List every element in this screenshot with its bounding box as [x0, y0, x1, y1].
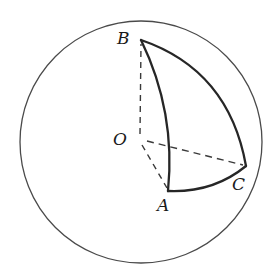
- sphere-outline: [20, 21, 262, 263]
- radius-OB-dashed: [140, 44, 141, 134]
- radius-OC-dashed: [147, 141, 243, 165]
- vertex-label-b: B: [117, 30, 130, 47]
- vertex-label-o: O: [113, 131, 127, 148]
- arc-BC: [141, 40, 246, 166]
- vertex-label-c: C: [232, 176, 245, 193]
- spherical-triangle-figure: B O A C: [0, 0, 280, 279]
- figure-canvas: [0, 0, 280, 279]
- radius-OA-dashed: [142, 145, 167, 188]
- vertex-label-a: A: [157, 197, 169, 214]
